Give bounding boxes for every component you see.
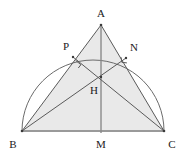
- geometry-canvas: A B C M H P N: [0, 0, 180, 159]
- label-m: M: [96, 138, 106, 150]
- vertex-dot-c: [163, 130, 166, 133]
- label-a: A: [97, 7, 105, 19]
- label-c: C: [168, 138, 175, 150]
- vertex-dot-a: [100, 24, 103, 27]
- label-p: P: [63, 40, 69, 52]
- label-b: B: [9, 138, 16, 150]
- vertex-dot-h: [100, 76, 102, 78]
- vertex-dot-p: [72, 56, 74, 58]
- geometry-figure: A B C M H P N: [0, 0, 180, 159]
- label-n: N: [130, 41, 138, 53]
- triangle-abc-fill: [22, 25, 164, 131]
- label-h: H: [90, 84, 98, 96]
- vertex-dot-b: [21, 130, 24, 133]
- vertex-dot-n: [125, 57, 127, 59]
